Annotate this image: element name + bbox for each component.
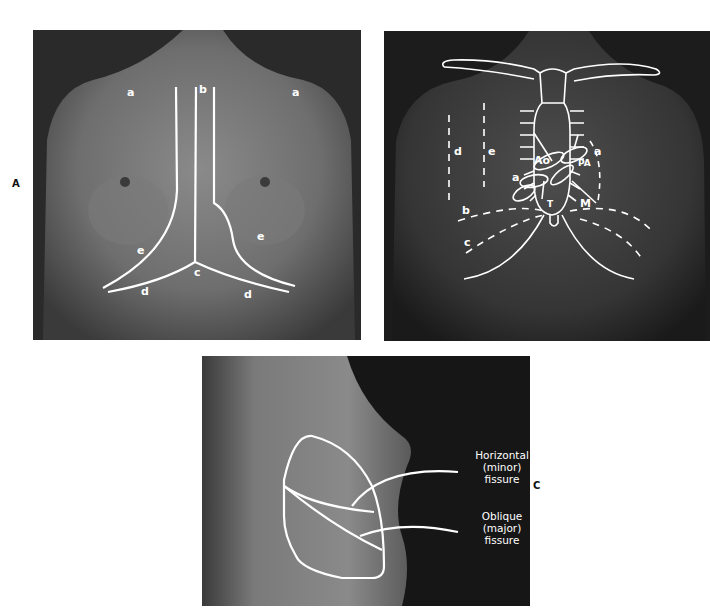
callout-text: fissure <box>462 534 542 546</box>
label-d-right: d <box>244 288 252 301</box>
label-e-right: e <box>257 230 264 243</box>
label-a-right: a <box>292 86 299 99</box>
panel-a-photo: a a b c d d e e <box>33 30 361 340</box>
label-ao: Ao <box>534 154 551 167</box>
callout-oblique-fissure: Oblique (major) fissure <box>462 510 542 546</box>
panel-a-figure: a a b c d d e e <box>33 30 361 340</box>
label-pa: PA <box>578 158 591 168</box>
panel-letter-c: C <box>533 480 540 491</box>
callout-text: (major) <box>462 522 542 534</box>
label-c: c <box>464 236 471 249</box>
label-t: T <box>547 199 554 209</box>
label-a-left: a <box>127 86 134 99</box>
panel-b-photo: d e a a Ao PA T M b c <box>384 31 710 341</box>
callout-text: Oblique <box>462 510 542 522</box>
label-b: b <box>199 83 207 96</box>
callout-text: (minor) <box>462 461 542 473</box>
label-a-lower: a <box>512 171 519 184</box>
panel-letter-a: A <box>12 178 20 189</box>
label-e-left: e <box>137 244 144 257</box>
label-c: c <box>194 266 201 279</box>
label-a-upper: a <box>594 145 601 158</box>
panel-b-figure: d e a a Ao PA T M b c <box>384 31 710 341</box>
label-d-left: d <box>141 285 149 298</box>
label-m: M <box>580 197 591 210</box>
callout-text: Horizontal <box>462 449 542 461</box>
label-e: e <box>488 145 495 158</box>
callout-text: fissure <box>462 473 542 485</box>
label-b: b <box>462 204 470 217</box>
label-d: d <box>454 145 462 158</box>
callout-horizontal-fissure: Horizontal (minor) fissure <box>462 449 542 485</box>
